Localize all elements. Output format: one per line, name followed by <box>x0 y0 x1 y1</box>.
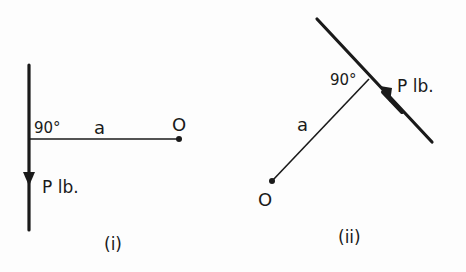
force-label: P lb. <box>42 177 79 197</box>
angle-label: 90° <box>330 71 357 89</box>
angle-label: 90° <box>34 119 61 137</box>
pivot-point-dot <box>176 136 182 142</box>
diagram-i: 90° a O P lb. (i) <box>23 65 186 254</box>
pivot-point-dot <box>269 178 275 184</box>
moment-of-force-diagrams: 90° a O P lb. (i) 90° a O P lb. (ii) <box>0 0 466 272</box>
perpendicular-distance-line <box>272 79 369 181</box>
caption: (ii) <box>338 227 361 247</box>
pivot-label: O <box>258 189 272 210</box>
pivot-label: O <box>172 114 186 135</box>
force-label: P lb. <box>397 76 434 96</box>
length-label: a <box>94 117 105 138</box>
force-arrow-icon <box>23 172 35 186</box>
diagram-ii: 90° a O P lb. (ii) <box>258 19 434 247</box>
length-label: a <box>297 114 308 135</box>
caption: (i) <box>104 234 122 254</box>
